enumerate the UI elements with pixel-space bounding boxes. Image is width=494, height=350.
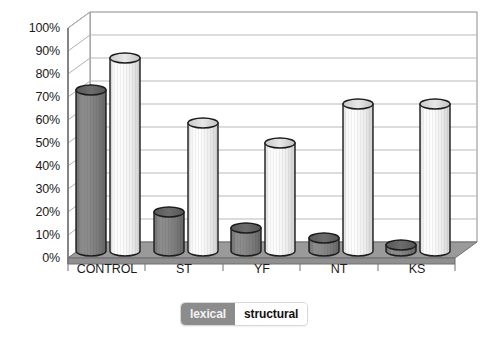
chart-scene (0, 0, 494, 350)
x-tick-control: CONTROL (77, 262, 137, 276)
plot-area: 100% 90% 80% 70% 60% 50% 40% 30% 20% 10%… (0, 0, 494, 350)
y-tick-40: 40% (8, 160, 60, 173)
y-tick-50: 50% (8, 137, 60, 150)
legend-item-structural[interactable]: structural (235, 303, 307, 325)
y-tick-70: 70% (8, 91, 60, 104)
y-axis-labels: 100% 90% 80% 70% 60% 50% 40% 30% 20% 10%… (4, 0, 60, 350)
y-tick-60: 60% (8, 114, 60, 127)
y-tick-100: 100% (8, 22, 60, 35)
y-tick-10: 10% (8, 229, 60, 242)
y-tick-90: 90% (8, 45, 60, 58)
bar-nt-structural (343, 99, 373, 256)
bar-st-structural (188, 118, 218, 256)
bar-nt-lexical (309, 233, 339, 256)
x-tick-yf: YF (254, 262, 270, 276)
bar-control-lexical (76, 85, 106, 256)
bar-control-structural (110, 53, 140, 256)
bar-yf-lexical (231, 223, 261, 256)
bar-chart: 100% 90% 80% 70% 60% 50% 40% 30% 20% 10%… (0, 0, 494, 350)
chart-legend: lexical structural (181, 303, 307, 325)
bar-ks-structural (420, 99, 450, 256)
bar-ks-lexical (386, 240, 416, 256)
bar-yf-structural (265, 138, 295, 256)
x-tick-nt: NT (331, 262, 347, 276)
legend-item-lexical[interactable]: lexical (181, 303, 235, 325)
legend-label-lexical: lexical (190, 307, 226, 321)
x-tick-ks: KS (409, 262, 425, 276)
x-axis-labels: CONTROL ST YF NT KS (0, 262, 494, 284)
y-tick-20: 20% (8, 206, 60, 219)
y-tick-30: 30% (8, 183, 60, 196)
bar-st-lexical (154, 207, 184, 256)
legend-label-structural: structural (244, 307, 298, 321)
x-tick-st: ST (176, 262, 192, 276)
y-tick-80: 80% (8, 68, 60, 81)
